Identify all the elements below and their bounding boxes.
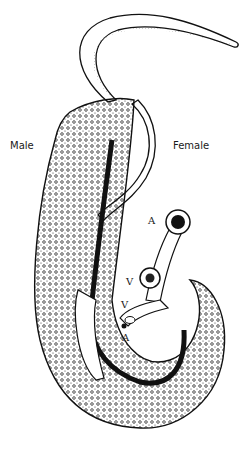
label-female: Female (173, 141, 209, 151)
label-male: Male (10, 141, 34, 151)
label-anterior-top: A (148, 216, 155, 226)
worm-illustration (0, 0, 251, 457)
label-ventral-lower: V (121, 300, 128, 310)
label-anterior-lower: A (122, 333, 129, 343)
label-ventral-upper: V (126, 277, 133, 287)
